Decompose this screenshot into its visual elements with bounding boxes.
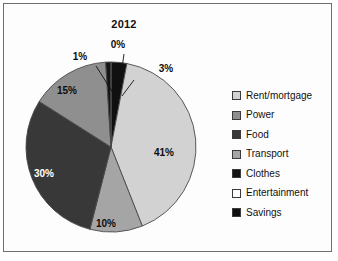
legend-swatch-icon: [232, 208, 241, 217]
legend-swatch-icon: [232, 150, 241, 159]
pie-slice-value-savings: 3%: [159, 63, 174, 74]
legend-swatch-icon: [232, 91, 241, 100]
pie-slice-value-rent-mortgage: 41%: [154, 147, 174, 158]
legend-item[interactable]: Food: [232, 125, 336, 145]
pie-chart-svg: 3%41%10%30%15%1%0%: [14, 34, 219, 249]
legend-item[interactable]: Rent/mortgage: [232, 86, 336, 106]
pie-slice-value-food: 30%: [34, 168, 54, 179]
legend-item-label: Clothes: [246, 169, 280, 179]
pie-slice-value-entertainment: 0%: [111, 39, 126, 50]
figure-frame: 2012 3%41%10%30%15%1%0% Rent/mortgagePow…: [3, 3, 332, 252]
legend-swatch-icon: [232, 111, 241, 120]
legend-item-label: Food: [246, 130, 269, 140]
legend-item[interactable]: Clothes: [232, 164, 336, 184]
legend-item[interactable]: Transport: [232, 145, 336, 165]
chart-title: 2012: [4, 18, 244, 30]
chart-screenshot: 2012 3%41%10%30%15%1%0% Rent/mortgagePow…: [0, 0, 338, 261]
pie-slice-value-transport: 10%: [96, 218, 116, 229]
legend-item-label: Power: [246, 110, 274, 120]
legend-item-label: Transport: [246, 149, 288, 159]
legend-item-label: Rent/mortgage: [246, 91, 312, 101]
legend-item[interactable]: Entertainment: [232, 184, 336, 204]
legend-item[interactable]: Savings: [232, 203, 336, 223]
pie-slice-value-power: 15%: [57, 85, 77, 96]
legend-item-label: Savings: [246, 208, 282, 218]
legend-item[interactable]: Power: [232, 106, 336, 126]
pie-slice-value-clothes: 1%: [73, 51, 88, 62]
legend-swatch-icon: [232, 189, 241, 198]
pie-chart: 3%41%10%30%15%1%0%: [14, 34, 219, 249]
legend-swatch-icon: [232, 130, 241, 139]
chart-legend: Rent/mortgagePowerFoodTransportClothesEn…: [232, 86, 336, 223]
legend-swatch-icon: [232, 169, 241, 178]
legend-item-label: Entertainment: [246, 188, 308, 198]
